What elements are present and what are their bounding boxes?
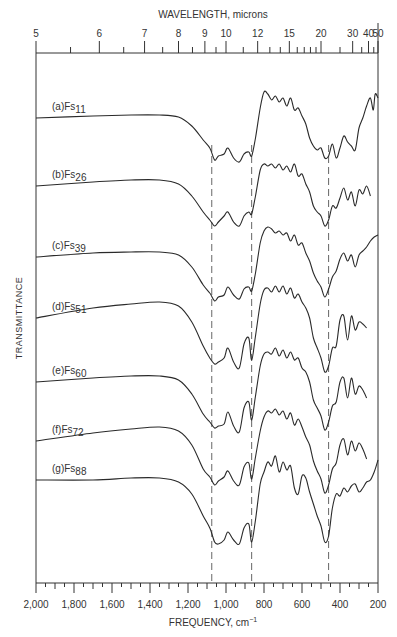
spectra-curves xyxy=(36,91,378,544)
frequency-tick-label: 400 xyxy=(332,599,349,610)
wavelength-tick-label: 20 xyxy=(315,28,327,39)
frequency-tick-label: 1,400 xyxy=(137,599,162,610)
wavelength-tick-label: 9 xyxy=(202,28,208,39)
frequency-tick-label: 800 xyxy=(256,599,273,610)
reference-dashed-lines xyxy=(212,145,329,583)
wavelength-tick-label: 10 xyxy=(220,28,232,39)
ir-spectra-chart: WAVELENGTH, microns 5678910121520304050 … xyxy=(0,0,397,637)
wavelength-tick-label: 6 xyxy=(97,28,103,39)
frequency-tick-label: 1,000 xyxy=(213,599,238,610)
series-label: (g)Fs88 xyxy=(52,463,87,477)
frequency-tick-label: 2,000 xyxy=(23,599,48,610)
frequency-tick-label: 1,600 xyxy=(99,599,124,610)
wavelength-tick-label: 7 xyxy=(142,28,148,39)
spectrum-curve xyxy=(36,227,378,301)
series-label: (c)Fs39 xyxy=(52,240,86,254)
frequency-tick-label: 1,200 xyxy=(175,599,200,610)
spectrum-curve xyxy=(36,456,378,545)
frequency-tick-label: 1,800 xyxy=(61,599,86,610)
frequency-axis: 2,0001,8001,6001,4001,2001,0008006004002… xyxy=(23,583,386,610)
spectrum-curve xyxy=(36,286,367,372)
x-axis-label: FREQUENCY, cm−1 xyxy=(169,616,257,628)
wavelength-tick-label: 12 xyxy=(252,28,264,39)
series-label: (d)Fs51 xyxy=(52,301,87,315)
wavelength-axis: 5678910121520304050 xyxy=(33,28,384,53)
spectrum-curve xyxy=(36,348,367,433)
top-axis-label: WAVELENGTH, microns xyxy=(158,9,267,20)
wavelength-tick-label: 30 xyxy=(347,28,359,39)
series-label: (b)Fs26 xyxy=(52,169,87,183)
wavelength-tick-label: 5 xyxy=(33,28,39,39)
series-label: (a)Fs11 xyxy=(52,101,86,115)
spectrum-curve xyxy=(36,91,378,162)
y-axis-label: TRANSMITTANCE xyxy=(14,277,24,359)
series-label: (e)Fs60 xyxy=(52,365,87,379)
series-labels: (a)Fs11(b)Fs26(c)Fs39(d)Fs51(e)Fs60(f)Fs… xyxy=(52,101,87,477)
frequency-tick-label: 600 xyxy=(294,599,311,610)
frequency-tick-label: 200 xyxy=(370,599,387,610)
wavelength-tick-label: 15 xyxy=(284,28,296,39)
wavelength-tick-label: 8 xyxy=(176,28,182,39)
